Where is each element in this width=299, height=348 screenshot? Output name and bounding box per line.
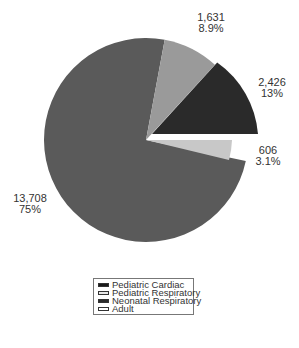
legend-swatch — [98, 291, 109, 295]
pie-chart — [0, 0, 299, 260]
label-adult: 606 3.1% — [253, 145, 283, 167]
label-pediatric-respiratory: 1,631 8.9% — [186, 12, 236, 34]
legend-swatch — [98, 307, 109, 311]
legend-swatch — [98, 283, 109, 287]
label-neonatal-respiratory: 13,708 75% — [10, 193, 50, 215]
chart-legend: Pediatric Cardiac Pediatric Respiratory … — [93, 278, 194, 315]
label-pediatric-cardiac: 2,426 13% — [252, 77, 292, 99]
legend-swatch — [98, 299, 109, 303]
legend-item-adult: Adult — [98, 305, 189, 313]
